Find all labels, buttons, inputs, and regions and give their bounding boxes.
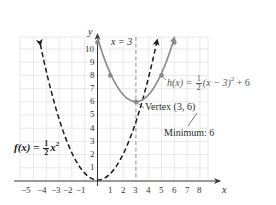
x-tick: 3 — [133, 186, 138, 195]
h-label-leader — [163, 77, 166, 80]
x-tick: 1 — [108, 186, 113, 195]
x-tick: −3 — [51, 186, 61, 195]
graph-canvas — [0, 0, 276, 205]
h-equation-label: h(x) = 12(x − 3)2 + 6 — [167, 75, 250, 92]
y-tick: 9 — [90, 58, 95, 67]
y-tick: 3 — [90, 137, 95, 146]
x-tick: −1 — [76, 186, 86, 195]
x-tick: 5 — [159, 186, 164, 195]
f-frac-den: 2 — [43, 149, 49, 157]
x-axis-label: x — [222, 185, 226, 195]
x-tick: 2 — [121, 186, 126, 195]
x-tick: 8 — [197, 186, 202, 195]
x-tick: 6 — [172, 186, 177, 195]
x-tick: 7 — [185, 186, 190, 195]
y-tick: 1 — [90, 163, 95, 172]
h-label-name: h(x) = — [167, 77, 195, 88]
y-axis-label: y — [88, 27, 92, 37]
h-label-body: (x − 3) — [203, 77, 231, 88]
f-equation-label: f(x) = 12x2 — [14, 140, 59, 157]
y-tick: 2 — [90, 150, 95, 159]
y-tick: 7 — [90, 84, 95, 93]
vertex-label: Vertex (3, 6) — [145, 102, 195, 112]
f-label-exp: 2 — [56, 140, 60, 148]
x-tick: −5 — [21, 186, 31, 195]
x-tick: −4 — [37, 186, 47, 195]
y-tick: 5 — [90, 110, 95, 119]
h-frac-den: 2 — [196, 84, 202, 92]
y-tick: 4 — [90, 124, 95, 133]
axis-of-symmetry-label: x = 3 — [110, 37, 133, 47]
f-label-fraction: 12 — [43, 140, 49, 157]
x-tick: −2 — [63, 186, 73, 195]
x-tick: 4 — [146, 186, 151, 195]
y-tick: 10 — [85, 45, 94, 54]
h-label-tail: + 6 — [234, 77, 250, 88]
minimum-label: Minimum: 6 — [164, 128, 214, 138]
y-tick: 6 — [90, 97, 95, 106]
f-label-name: f(x) = — [14, 141, 42, 153]
f-curve — [40, 41, 157, 181]
y-tick: 8 — [90, 71, 95, 80]
h-label-fraction: 12 — [196, 75, 202, 92]
